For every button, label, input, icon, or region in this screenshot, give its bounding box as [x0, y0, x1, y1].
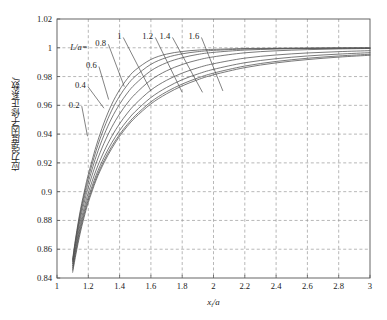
- leader-0.2: [82, 106, 88, 136]
- curve-1.4: [73, 48, 370, 261]
- curve-label-1: 1: [117, 31, 121, 41]
- y-tick-0.92: 0.92: [37, 158, 52, 168]
- x-tick-1.8: 1.8: [177, 281, 188, 291]
- label-leader-lines: [82, 37, 223, 136]
- curve-label-1.6: 1.6: [188, 31, 199, 41]
- curve-label-0.6: 0.6: [86, 60, 97, 70]
- x-tick-1.4: 1.4: [114, 281, 125, 291]
- leader-1.6: [201, 37, 222, 90]
- curve-label-1.4: 1.4: [160, 31, 171, 41]
- curve-0.8: [73, 51, 370, 266]
- x-tick-2.2: 2.2: [239, 281, 250, 291]
- curve-1.6: [73, 48, 370, 259]
- y-tick-1.02: 1.02: [37, 14, 52, 24]
- x-tick-1.6: 1.6: [146, 281, 157, 291]
- leader-0.6: [99, 67, 109, 100]
- y-tick-0.96: 0.96: [37, 100, 53, 110]
- legend-prefix: L/a=: [69, 42, 87, 52]
- leader-1.4: [173, 37, 203, 92]
- curve-label-0.2: 0.2: [69, 100, 80, 110]
- curve-label-0.4: 0.4: [75, 80, 86, 90]
- y-tick-0.94: 0.94: [37, 129, 53, 139]
- y-tick-0.84: 0.84: [37, 273, 53, 283]
- y-tick-0.98: 0.98: [37, 72, 52, 82]
- chart-canvas: 11.21.41.61.822.22.42.62.83 0.840.860.88…: [0, 0, 387, 320]
- gridlines: [57, 19, 370, 278]
- x-tick-1.2: 1.2: [83, 281, 94, 291]
- chart-svg: 11.21.41.61.822.22.42.62.83 0.840.860.88…: [0, 0, 387, 320]
- y-tick-0.9: 0.9: [41, 187, 52, 197]
- leader-0.4: [88, 87, 104, 109]
- x-axis-caption-text: xi/a: [206, 297, 220, 308]
- x-axis-caption: xi/a: [206, 297, 220, 308]
- x-tick-2.8: 2.8: [333, 281, 344, 291]
- curve-1: [73, 49, 370, 264]
- legend-prefix-text: L/a=: [69, 42, 87, 52]
- x-tick-1: 1: [55, 281, 59, 291]
- x-tick-2: 2: [211, 281, 215, 291]
- curve-0.6: [73, 53, 370, 268]
- leader-1: [123, 37, 151, 90]
- curve-1.2: [73, 48, 370, 262]
- y-tick-0.88: 0.88: [37, 215, 52, 225]
- y-tick-1: 1: [48, 43, 52, 53]
- figure-root: 应力强度因子修正系数f 11.21.41.61.822.22.42.62.83 …: [0, 0, 387, 320]
- curve-label-1.2: 1.2: [142, 31, 153, 41]
- curve-label-0.8: 0.8: [95, 38, 106, 48]
- x-tick-2.4: 2.4: [271, 281, 282, 291]
- x-tick-3: 3: [368, 281, 372, 291]
- leader-0.8: [108, 44, 124, 86]
- y-tick-0.86: 0.86: [37, 244, 53, 254]
- x-tick-2.6: 2.6: [302, 281, 313, 291]
- x-axis-ticks: 11.21.41.61.822.22.42.62.83: [55, 275, 372, 291]
- curve-group: [73, 48, 370, 272]
